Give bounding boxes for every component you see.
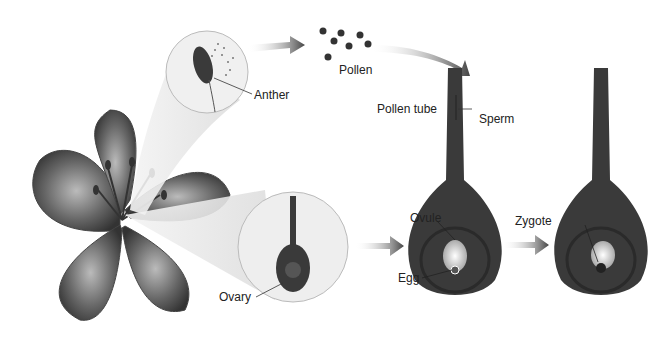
label-zygote: Zygote — [515, 215, 552, 227]
label-ovary: Ovary — [219, 291, 251, 303]
ovary-zoom-circle — [238, 192, 348, 302]
label-pollen-tube: Pollen tube — [377, 103, 437, 115]
arrow-ovule-to-zygote — [502, 235, 549, 255]
pollen-grains — [320, 28, 372, 61]
diagram-canvas — [0, 0, 671, 340]
ovule-zygote — [554, 68, 647, 295]
label-sperm: Sperm — [479, 113, 514, 125]
anther-zoom-circle — [166, 31, 252, 113]
label-ovule: Ovule — [410, 212, 441, 224]
label-anther: Anther — [254, 89, 289, 101]
label-pollen: Pollen — [339, 64, 372, 76]
fertilization-diagram: Anther Pollen Pollen tube Sperm Ovule Eg… — [0, 0, 671, 340]
label-egg: Egg — [398, 272, 419, 284]
arrow-anther-to-pollen — [248, 36, 305, 54]
arrow-ovary-to-ovule — [355, 236, 404, 256]
